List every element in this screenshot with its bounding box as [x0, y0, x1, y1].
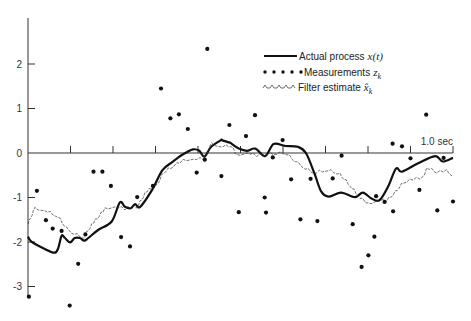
measurement-point [44, 218, 48, 222]
measurement-point [119, 235, 123, 239]
measurement-point [315, 219, 319, 223]
filter-estimate-line [28, 143, 453, 239]
legend-label-measurements: Measurementszk [304, 66, 381, 81]
measurement-point [263, 195, 267, 199]
measurement-point [109, 184, 113, 188]
measurement-point [331, 176, 335, 180]
measurement-point [424, 113, 428, 117]
series-filter-estimate [28, 143, 453, 239]
measurement-point [195, 171, 199, 175]
y-tick-label: -3 [13, 281, 22, 292]
measurement-point [298, 217, 302, 221]
measurement-point [372, 235, 376, 239]
legend: Actual processx(t) Measurementszk Filter… [263, 50, 383, 96]
legend-label-actual: Actual processx(t) [299, 50, 383, 63]
legend-caret-line-icon [263, 85, 295, 88]
measurement-point [271, 155, 275, 159]
measurement-point [91, 170, 95, 174]
measurement-point [309, 177, 313, 181]
measurement-point [442, 156, 446, 160]
measurement-point [128, 244, 132, 248]
y-tick-label: -1 [13, 192, 22, 203]
measurement-point [244, 134, 248, 138]
measurement-point [27, 295, 31, 299]
measurement-point [383, 200, 387, 204]
measurement-point [417, 188, 421, 192]
measurement-point [51, 227, 55, 231]
measurement-point [203, 158, 207, 162]
measurement-point [177, 112, 181, 116]
measurement-point [400, 144, 404, 148]
measurement-point [289, 177, 293, 181]
measurement-point [360, 265, 364, 269]
measurement-point [159, 86, 163, 90]
measurement-point [100, 170, 104, 174]
x-axis-end-label: 1.0 sec [421, 136, 453, 147]
measurement-point [264, 211, 268, 215]
measurement-point [391, 209, 395, 213]
series-actual-process [28, 140, 453, 253]
legend-label-filter: Filter estimatex̂k [298, 81, 373, 96]
measurement-point [219, 174, 223, 178]
actual-process-line [28, 140, 453, 253]
measurement-point [366, 253, 370, 257]
legend-dots-icon [263, 70, 302, 73]
measurement-point [151, 184, 155, 188]
measurement-point [281, 138, 285, 142]
measurement-point [35, 189, 39, 193]
measurement-point [135, 195, 139, 199]
measurement-point [76, 262, 80, 266]
y-tick-label: 0 [16, 148, 22, 159]
measurement-point [435, 208, 439, 212]
measurement-point [374, 194, 378, 198]
measurement-point [351, 222, 355, 226]
measurement-point [60, 229, 64, 233]
kalman-filter-chart: 210-1-2-3 Actual processx(t) Measurement… [0, 0, 471, 321]
measurement-point [83, 232, 87, 236]
measurement-point [391, 142, 395, 146]
measurement-point [237, 210, 241, 214]
y-tick-label: -2 [13, 237, 22, 248]
axes: 210-1-2-3 [13, 18, 453, 297]
measurement-point [205, 47, 209, 51]
measurement-point [340, 154, 344, 158]
measurement-point [186, 127, 190, 131]
y-tick-label: 1 [16, 103, 22, 114]
measurement-point [68, 304, 72, 308]
y-tick-label: 2 [16, 59, 22, 70]
measurement-point [227, 123, 231, 127]
measurement-point [451, 199, 455, 203]
measurement-point [408, 156, 412, 160]
measurement-point [168, 116, 172, 120]
measurement-point [253, 113, 257, 117]
